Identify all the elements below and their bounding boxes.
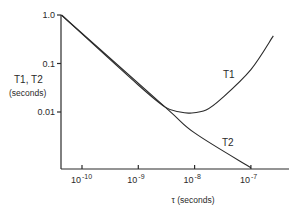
series-line-t1 (61, 15, 273, 113)
x-tick-label: 10-7 (240, 173, 257, 185)
x-tick-label: 10-10 (71, 173, 92, 185)
y-tick-label: 1.0 (42, 10, 55, 20)
series-label-t2: T2 (222, 137, 234, 148)
axes (61, 15, 289, 169)
x-tick-label: 10-8 (184, 173, 201, 185)
x-axis-label: τ (seconds) (171, 195, 214, 205)
x-tick-label: 10-9 (127, 173, 144, 185)
series-label-t1: T1 (223, 69, 235, 80)
chart: 1.00.10.01 10-1010-910-810-7 T1, T2 (sec… (0, 0, 301, 216)
x-ticks: 10-1010-910-810-7 (71, 165, 257, 185)
y-tick-label: 0.1 (42, 59, 55, 69)
y-tick-label: 0.01 (37, 107, 55, 117)
y-axis-label-line2: (seconds) (9, 88, 46, 98)
y-axis-label-line1: T1, T2 (14, 74, 43, 85)
y-ticks: 1.00.10.01 (37, 10, 61, 117)
series-group (61, 15, 273, 168)
